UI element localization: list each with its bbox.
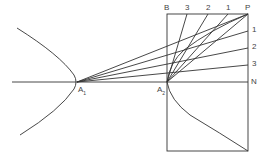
label-a2: A2 — [157, 86, 165, 96]
label-side-2: 2 — [252, 43, 256, 51]
ray-a1-to-p — [77, 14, 248, 82]
label-b: B — [164, 4, 169, 12]
label-a1: A1 — [78, 86, 86, 96]
left-hyperbola-branch — [17, 28, 76, 135]
ray-a1-to-side-1 — [77, 31, 248, 82]
hyperbola-construction-diagram — [0, 0, 260, 159]
ray-a2-to-top-2 — [167, 14, 208, 82]
label-side-3: 3 — [252, 60, 256, 68]
label-n: N — [251, 78, 257, 86]
ray-a1-to-side-2 — [77, 48, 248, 82]
label-top-2: 2 — [206, 4, 210, 12]
label-top-1: 1 — [226, 4, 230, 12]
right-hyperbola-lower-branch — [167, 82, 248, 151]
ray-a1-to-side-3 — [77, 65, 248, 82]
label-top-3: 3 — [185, 4, 189, 12]
label-p: P — [245, 4, 250, 12]
label-side-1: 1 — [252, 26, 256, 34]
